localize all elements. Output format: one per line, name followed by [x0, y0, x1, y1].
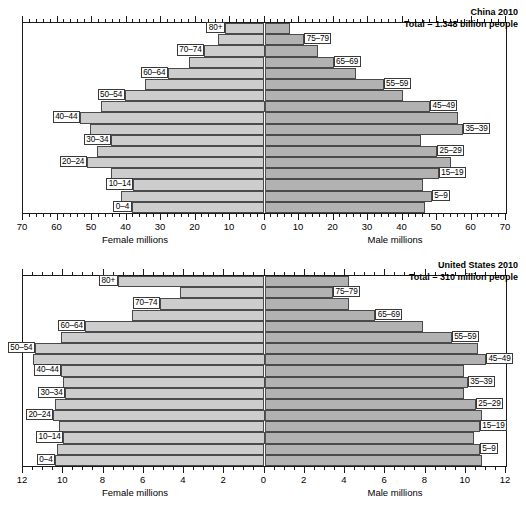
- bar-male: [265, 421, 480, 432]
- bar-male: [265, 90, 403, 101]
- axis-tick-minor: [243, 467, 244, 470]
- bar-male: [265, 377, 468, 388]
- bar-female: [225, 23, 265, 34]
- axis-tick-minor: [319, 214, 320, 217]
- age-group-label: 65–69: [375, 309, 402, 320]
- axis-tick-minor: [485, 467, 486, 470]
- bar-male: [265, 34, 305, 45]
- axis-tick-minor: [464, 214, 465, 217]
- axis-tick-minor: [404, 467, 405, 470]
- plot-area-united-states: [22, 275, 507, 467]
- axis-tick-major: [229, 214, 230, 220]
- axis-tick-minor: [215, 214, 216, 217]
- bar-female: [63, 432, 264, 443]
- bar-female: [132, 202, 265, 213]
- axis-tick-minor: [455, 467, 456, 470]
- bar-female: [189, 57, 265, 68]
- bar-male: [265, 135, 422, 146]
- age-group-label: 0–4: [37, 454, 55, 465]
- axis-tick-label: 30: [362, 221, 373, 232]
- axis-tick-minor: [257, 214, 258, 217]
- axis-tick-label: 30: [155, 221, 166, 232]
- axis-tick-minor: [277, 214, 278, 217]
- bar-male: [265, 432, 474, 443]
- axis-tick-major: [384, 467, 385, 473]
- axis-tick-minor: [498, 214, 499, 217]
- age-group-label: 45–49: [430, 100, 457, 111]
- bar-female: [61, 332, 264, 343]
- axis-tick-minor: [326, 214, 327, 217]
- bar-male: [265, 112, 458, 123]
- axis-tick-minor: [188, 214, 189, 217]
- axis-tick-label: 10: [293, 221, 304, 232]
- plot-area-china: [22, 22, 507, 214]
- age-group-label: 30–34: [38, 387, 65, 398]
- axis-tick-major: [402, 214, 403, 220]
- axis-tick-major: [505, 214, 506, 220]
- age-group-label: 15–19: [439, 167, 466, 178]
- bar-female: [59, 421, 264, 432]
- bar-male: [265, 298, 350, 309]
- axis-tick-minor: [233, 467, 234, 470]
- axis-tick-major: [126, 214, 127, 220]
- axis-tick-minor: [146, 214, 147, 217]
- age-group-label: 60–64: [58, 320, 85, 331]
- axis-tick-minor: [429, 214, 430, 217]
- axis-tick-minor: [284, 467, 285, 470]
- axis-tick-label: 4: [341, 474, 346, 485]
- bar-female: [97, 146, 264, 157]
- axis-tick-minor: [98, 214, 99, 217]
- age-group-label: 0–4: [113, 201, 131, 212]
- axis-tick-minor: [203, 467, 204, 470]
- axis-tick-minor: [422, 214, 423, 217]
- axis-tick-minor: [274, 467, 275, 470]
- axis-tick-minor: [253, 467, 254, 470]
- axis-tick-minor: [63, 214, 64, 217]
- axis-tick-minor: [77, 214, 78, 217]
- chart-title-line1: United States 2010: [409, 259, 518, 271]
- axis-tick-label: 12: [500, 474, 511, 485]
- axis-tick-minor: [123, 467, 124, 470]
- axis-tick-minor: [32, 467, 33, 470]
- axis-tick-minor: [132, 214, 133, 217]
- axis-tick-label: 0: [261, 221, 266, 232]
- bar-male: [265, 321, 424, 332]
- bar-female: [133, 179, 264, 190]
- bar-male: [265, 68, 356, 79]
- bar-male: [265, 332, 452, 343]
- axis-tick-minor: [381, 214, 382, 217]
- bar-female: [101, 101, 265, 112]
- axis-tick-minor: [353, 214, 354, 217]
- age-group-label: 25–29: [476, 398, 503, 409]
- chart-title-line2: Total = 310 million people: [409, 271, 518, 283]
- axis-tick-minor: [414, 467, 415, 470]
- axis-tick-minor: [312, 214, 313, 217]
- axis-tick-label: 10: [57, 474, 68, 485]
- age-group-label: 5–9: [480, 443, 498, 454]
- bar-female: [90, 124, 264, 135]
- axis-tick-label: 6: [382, 474, 387, 485]
- axis-tick-minor: [394, 467, 395, 470]
- axis-tick-label: 10: [459, 474, 470, 485]
- bar-female: [160, 298, 265, 309]
- axis-tick-major: [367, 214, 368, 220]
- axis-tick-label: 40: [120, 221, 131, 232]
- bar-male: [265, 168, 439, 179]
- axis-tick-minor: [435, 467, 436, 470]
- bar-male: [265, 455, 482, 466]
- axis-tick-minor: [495, 467, 496, 470]
- axis-tick-minor: [201, 214, 202, 217]
- axis-tick-minor: [314, 467, 315, 470]
- age-group-label: 35–39: [468, 376, 495, 387]
- axis-tick-minor: [491, 214, 492, 217]
- bar-male: [265, 157, 451, 168]
- bar-female: [33, 354, 264, 365]
- bar-female: [85, 321, 264, 332]
- age-group-label: 45–49: [486, 353, 513, 364]
- axis-tick-minor: [339, 214, 340, 217]
- axis-tick-minor: [374, 467, 375, 470]
- axis-tick-label: 12: [17, 474, 28, 485]
- axis-tick-minor: [153, 467, 154, 470]
- axis-tick-minor: [294, 467, 295, 470]
- bar-female: [125, 90, 265, 101]
